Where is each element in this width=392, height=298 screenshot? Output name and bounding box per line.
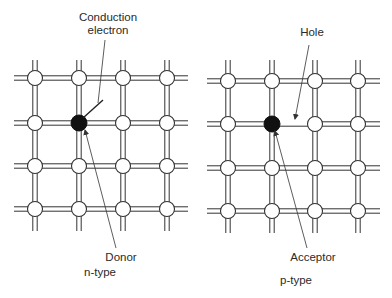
lattice-atom — [116, 202, 131, 217]
conduction-electron-label-line1: Conduction — [79, 11, 137, 24]
n-type-lattice — [14, 60, 188, 231]
lattice-atom — [116, 116, 131, 131]
lattice-atom — [72, 202, 87, 217]
lattice-atom — [28, 116, 43, 131]
lattice-atom — [308, 117, 323, 132]
lattice-atom — [265, 161, 280, 176]
acceptor-leader-arrow — [275, 131, 307, 248]
acceptor-label: Acceptor — [290, 251, 335, 264]
lattice-atom — [351, 117, 366, 132]
lattice-atom — [351, 74, 366, 89]
lattice-atom — [116, 159, 131, 174]
donor-leader-arrow — [85, 130, 116, 248]
lattice-atom — [265, 204, 280, 219]
lattice-atom — [308, 161, 323, 176]
donor-label: Donor — [105, 251, 136, 264]
hole-label: Hole — [300, 26, 324, 39]
lattice-atom — [351, 161, 366, 176]
lattice-atom — [160, 116, 175, 131]
lattice-atom — [28, 71, 43, 86]
lattice-atom — [160, 159, 175, 174]
lattice-atom — [221, 117, 236, 132]
lattice-atom — [160, 202, 175, 217]
lattice-atom — [116, 71, 131, 86]
lattice-atom — [221, 161, 236, 176]
n-type-caption: n-type — [84, 266, 116, 279]
lattice-atom — [72, 159, 87, 174]
lattice-atom — [72, 71, 87, 86]
lattice-atom — [221, 204, 236, 219]
lattice-atom — [351, 204, 366, 219]
lattice-atom — [308, 74, 323, 89]
p-type-caption: p-type — [280, 274, 312, 287]
conduction-electron-marker — [83, 100, 103, 118]
conduction-electron-label-line2: electron — [79, 24, 137, 37]
lattice-atom — [28, 202, 43, 217]
lattice-atom — [221, 74, 236, 89]
lattice-atom — [265, 74, 280, 89]
acceptor-atom — [264, 116, 280, 132]
p-type-lattice — [207, 60, 380, 233]
hole-leader-arrow — [295, 45, 309, 119]
lattice-atom — [308, 204, 323, 219]
conduction-electron-leader — [98, 40, 105, 103]
lattice-atom — [160, 71, 175, 86]
lattice-atom — [28, 159, 43, 174]
conduction-electron-label: Conduction electron — [79, 11, 137, 37]
